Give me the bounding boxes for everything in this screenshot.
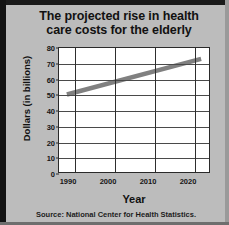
y-gridline: [59, 158, 209, 159]
page-border-right: [225, 0, 229, 225]
y-tick-label: 60: [47, 75, 55, 84]
y-tick-label: 0: [51, 170, 55, 179]
chart-title-line-2: care costs for the elderly: [24, 23, 214, 37]
y-gridline: [59, 111, 209, 112]
y-tick-label: 30: [47, 122, 55, 131]
y-tick-mark: [56, 126, 59, 127]
y-tick-label: 80: [47, 44, 55, 53]
y-tick-mark: [56, 79, 59, 80]
x-gridline: [195, 48, 196, 172]
x-tick-label: 2000: [100, 177, 117, 186]
y-gridline: [59, 143, 209, 144]
screenshot-root: The projected rise in health care costs …: [0, 0, 229, 225]
x-gridline: [115, 48, 116, 172]
y-tick-label: 20: [47, 138, 55, 147]
y-tick-mark: [56, 63, 59, 64]
data-line-series: [59, 48, 209, 172]
y-tick-mark: [56, 48, 59, 49]
y-tick-label: 40: [47, 107, 55, 116]
x-gridline: [155, 48, 156, 172]
y-tick-mark: [56, 142, 59, 143]
x-gridline: [75, 48, 76, 172]
plot-area: 010203040506070801990200020102020: [58, 47, 210, 173]
page-border-bottom: [0, 222, 229, 225]
y-tick-mark: [56, 111, 59, 112]
y-gridline: [59, 64, 209, 65]
chart-figure: The projected rise in health care costs …: [6, 5, 225, 222]
chart-title-line-1: The projected rise in health: [24, 9, 214, 23]
y-tick-mark: [56, 158, 59, 159]
y-axis-title: Dollars (in billions): [21, 49, 32, 149]
x-axis-title: Year: [58, 193, 210, 205]
y-gridline: [59, 80, 209, 81]
y-tick-label: 10: [47, 154, 55, 163]
x-tick-label: 2020: [180, 177, 197, 186]
y-gridline: [59, 95, 209, 96]
y-tick-mark: [56, 174, 59, 175]
x-tick-label: 1990: [60, 177, 77, 186]
y-gridline: [59, 127, 209, 128]
y-tick-label: 50: [47, 91, 55, 100]
x-tick-label: 2010: [140, 177, 157, 186]
chart-title: The projected rise in health care costs …: [24, 9, 214, 37]
source-note: Source: National Center for Health Stati…: [16, 210, 216, 219]
y-tick-label: 70: [47, 59, 55, 68]
y-tick-mark: [56, 95, 59, 96]
